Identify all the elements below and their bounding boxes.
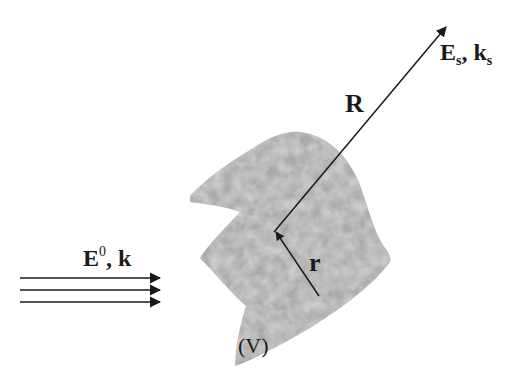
volume-label: (V): [238, 333, 269, 358]
incident-field-label: E0, k: [83, 244, 132, 271]
scatterer-body: [190, 132, 390, 366]
scattering-diagram: E0, k Es, ks R r (V): [0, 0, 520, 377]
R-vector-label: R: [345, 89, 364, 118]
incident-wave-arrows: [20, 278, 160, 302]
r-vector-label: r: [309, 248, 321, 277]
scattered-field-label: Es, ks: [440, 39, 493, 68]
